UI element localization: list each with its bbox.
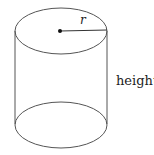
cylinder-diagram: r height (0, 0, 154, 155)
center-dot (58, 29, 62, 33)
cylinder-bottom-ellipse (15, 102, 107, 148)
height-label: height (116, 73, 154, 88)
radius-line (60, 30, 107, 31)
radius-label: r (80, 13, 87, 27)
